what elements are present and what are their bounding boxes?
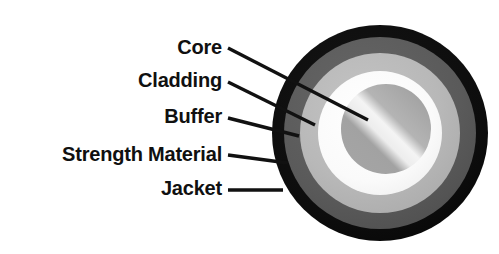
label-core: Core <box>177 36 222 58</box>
diagram-canvas: Core Cladding Buffer Strength Material J… <box>0 0 499 254</box>
label-strength-material: Strength Material <box>62 143 222 165</box>
label-buffer: Buffer <box>164 105 222 127</box>
cable-cross-section <box>272 25 488 241</box>
fiber-cable-diagram: Core Cladding Buffer Strength Material J… <box>0 0 499 254</box>
label-cladding: Cladding <box>138 69 222 91</box>
labels: Core Cladding Buffer Strength Material J… <box>62 36 223 199</box>
layer-core[interactable] <box>341 84 431 174</box>
label-jacket: Jacket <box>161 177 223 199</box>
